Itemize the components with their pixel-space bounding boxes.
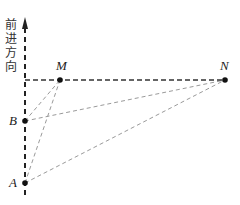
arrow-up-icon	[22, 17, 28, 29]
label-n: N	[220, 58, 229, 74]
label-m: M	[56, 58, 67, 74]
diagram-canvas	[0, 0, 240, 205]
segment-a-m	[25, 80, 60, 183]
point-b	[22, 118, 28, 124]
point-m	[57, 77, 63, 83]
point-n	[222, 77, 228, 83]
point-a	[22, 180, 28, 186]
label-b: B	[9, 113, 17, 129]
guide-lines	[25, 80, 225, 183]
label-a: A	[9, 175, 17, 191]
